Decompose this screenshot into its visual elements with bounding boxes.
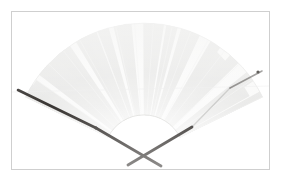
fan-photograph — [0, 0, 282, 181]
photo-light-wash — [12, 12, 269, 169]
screenshot-canvas: A white and pale grey striped folding fa… — [0, 0, 282, 181]
photo-frame — [0, 0, 282, 181]
